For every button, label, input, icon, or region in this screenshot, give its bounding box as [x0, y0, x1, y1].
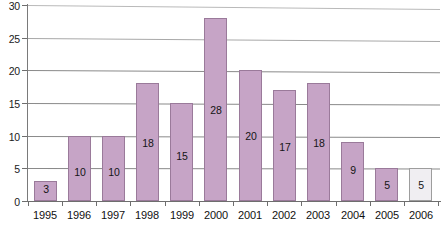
- y-axis-tick-label-15: 15: [0, 98, 20, 110]
- x-axis-label-2003: 2003: [298, 209, 338, 221]
- y-axis-tick-label-30: 30: [0, 0, 20, 12]
- bar-value-2002: 17: [273, 141, 297, 153]
- bar-value-2001: 20: [239, 130, 263, 142]
- y-axis-tick-label-25: 25: [0, 33, 20, 45]
- x-axis-tick-mark: [336, 201, 337, 206]
- gridline-30: [28, 5, 440, 10]
- gridline-15: [28, 103, 440, 106]
- x-axis-tick-mark: [370, 201, 371, 206]
- bar-value-1995: 3: [34, 183, 58, 195]
- x-axis-tick-mark: [233, 201, 234, 206]
- bar-value-2006: 5: [409, 179, 433, 191]
- x-axis-tick-mark: [96, 201, 97, 206]
- bar-value-1996: 10: [68, 166, 92, 178]
- x-axis-tick-mark: [267, 201, 268, 206]
- bar-value-2004: 9: [341, 164, 365, 176]
- x-axis-label-1998: 1998: [127, 209, 167, 221]
- x-axis-tick-mark: [130, 201, 131, 206]
- y-axis-tick-label-10: 10: [0, 131, 20, 143]
- x-axis-tick-mark: [62, 201, 63, 206]
- bar-value-2000: 28: [204, 104, 228, 116]
- plot-area: 3 10 10 18 15 28 20 17 18 9 5 5: [28, 5, 440, 201]
- bar-value-1997: 10: [102, 166, 126, 178]
- x-axis-tick-mark: [28, 201, 29, 206]
- y-axis-tick-label-0: 0: [0, 196, 20, 208]
- gridline-25: [28, 38, 440, 42]
- x-axis-tick-mark: [301, 201, 302, 206]
- bar-chart: 30 25 20 15 10 5 0 3 10 10 18: [0, 0, 445, 227]
- bar-value-1999: 15: [170, 150, 194, 162]
- x-axis-tick-mark: [438, 201, 439, 206]
- x-axis-tick-mark: [404, 201, 405, 206]
- bar-value-2003: 18: [307, 137, 331, 149]
- bar-value-1998: 18: [136, 137, 160, 149]
- y-axis-tick-label-20: 20: [0, 65, 20, 77]
- bar-value-2005: 5: [375, 179, 399, 191]
- x-axis-tick-mark: [199, 201, 200, 206]
- x-axis-label-2006: 2006: [401, 209, 441, 221]
- x-axis-line: [27, 201, 441, 202]
- gridline-20: [28, 70, 440, 73]
- y-axis-tick-label-5: 5: [0, 163, 20, 175]
- x-axis-tick-mark: [165, 201, 166, 206]
